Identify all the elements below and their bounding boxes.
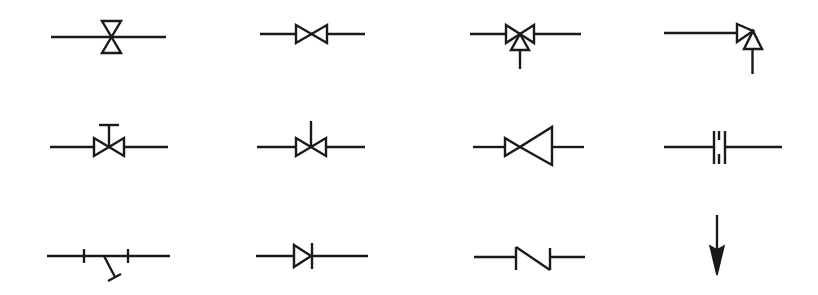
spring-safety-valve-symbol xyxy=(47,249,170,281)
three-way-valve-symbol xyxy=(470,25,581,69)
symbol-legend-canvas xyxy=(0,0,818,295)
hand-operated-valve-symbol xyxy=(50,125,168,156)
non-return-flap-symbol xyxy=(474,247,585,270)
gate-valve-symbol xyxy=(260,25,365,43)
flow-direction-arrow-symbol xyxy=(710,215,724,275)
flange-union-symbol xyxy=(664,131,782,164)
check-valve-symbol xyxy=(256,243,368,269)
symbol-grid xyxy=(0,0,818,295)
reducer-valve-symbol xyxy=(473,127,584,165)
stem-valve-symbol xyxy=(257,121,365,156)
valve-vertical-bowtie-symbol xyxy=(51,21,166,53)
angle-valve-symbol xyxy=(664,24,762,74)
